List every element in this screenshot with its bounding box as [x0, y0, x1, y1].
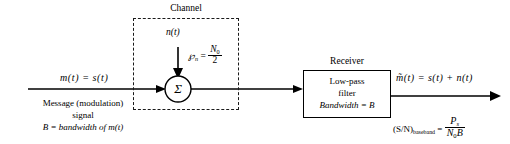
summing-junction-symbol: Σ — [165, 76, 191, 102]
snr-numerator-subscript: s — [456, 120, 459, 127]
receiver-input-arrowhead — [293, 85, 303, 93]
channel-label: Channel — [133, 4, 239, 14]
snr-subscript: baseband — [413, 129, 435, 135]
receiver-label: Receiver — [303, 57, 391, 67]
input-signal-label: m(t) = s(t) — [60, 73, 108, 84]
snr-equals: = — [437, 124, 442, 134]
noise-psd-subscript: n — [195, 55, 198, 62]
snr-denominator-b: B — [457, 127, 463, 138]
input-caption-line1: Message (modulation) — [8, 99, 158, 108]
receiver-line1: Low-pass — [304, 75, 390, 87]
receiver-block: Low-pass filter Bandwidth = B — [303, 70, 391, 118]
noise-psd-numerator-subscript: 0 — [217, 48, 220, 55]
baseband-snr-expression: (S/N)baseband = Ps N0B — [393, 116, 465, 140]
input-caption-line2: signal — [8, 111, 158, 120]
output-signal-label: m̃(t) = s(t) + n(t) — [396, 73, 473, 84]
noise-signal-label: n(t) — [166, 28, 180, 38]
snr-label: (S/N) — [393, 124, 413, 134]
snr-fraction: Ps N0B — [445, 116, 465, 140]
receiver-line2: filter — [304, 87, 390, 99]
input-caption-line3: B = bandwidth of m(t) — [8, 123, 158, 132]
noise-psd-expression: ℘n = N0 2 — [188, 45, 222, 66]
output-arrowhead — [490, 91, 501, 101]
noise-psd-fraction: N0 2 — [208, 45, 221, 66]
receiver-line3: Bandwidth = B — [304, 99, 390, 111]
diagram-canvas: Channel n(t) ℘n = N0 2 Σ m(t) = s(t) Mes… — [0, 0, 510, 144]
noise-psd-symbol: ℘ — [188, 51, 195, 61]
noise-psd-equals: = — [201, 51, 206, 61]
receiver-block-text: Low-pass filter Bandwidth = B — [304, 75, 390, 111]
noise-psd-denominator: 2 — [208, 55, 221, 66]
